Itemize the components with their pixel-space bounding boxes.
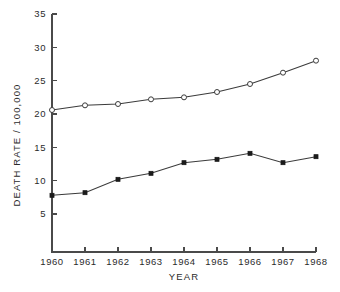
y-tick-label: 25 [34,75,46,86]
y-tick-label: 10 [34,175,46,186]
data-point [83,191,87,195]
x-tick-label: 1961 [73,256,96,267]
axis-frame [52,14,316,252]
data-point [149,97,154,102]
data-point [149,171,153,175]
data-point [281,70,286,75]
x-tick-label: 1968 [304,256,327,267]
x-tick-label: 1960 [40,256,63,267]
series-line-lower-series [52,153,316,195]
y-tick-label: 5 [40,208,46,219]
x-axis-title: YEAR [169,271,199,282]
data-point [248,82,253,87]
y-axis-title: DEATH RATE / 100,000 [11,83,22,206]
data-point [182,95,187,100]
data-point [50,193,54,197]
y-tick-label: 15 [34,142,46,153]
axis-tick-labels: 5101520253035196019611962196319641965196… [34,8,327,267]
data-point [314,155,318,159]
axis-ticks [52,14,316,252]
y-tick-label: 30 [34,42,46,53]
x-tick-label: 1964 [172,256,195,267]
x-tick-label: 1965 [205,256,228,267]
data-point [50,108,55,113]
y-tick-label: 35 [34,8,46,19]
plot-area: 5101520253035196019611962196319641965196… [0,0,340,292]
data-point [215,90,220,95]
x-tick-label: 1962 [106,256,129,267]
data-point [116,102,121,107]
data-point [314,58,319,63]
data-point [248,151,252,155]
x-tick-label: 1967 [271,256,294,267]
data-point [83,103,88,108]
x-tick-label: 1966 [238,256,261,267]
data-point [116,177,120,181]
data-point [215,157,219,161]
data-point [182,161,186,165]
data-point [281,161,285,165]
line-chart: 5101520253035196019611962196319641965196… [0,0,340,292]
series-line-upper-series [52,61,316,110]
data-series [50,58,319,197]
axes [52,14,316,252]
y-tick-label: 20 [34,108,46,119]
x-tick-label: 1963 [139,256,162,267]
